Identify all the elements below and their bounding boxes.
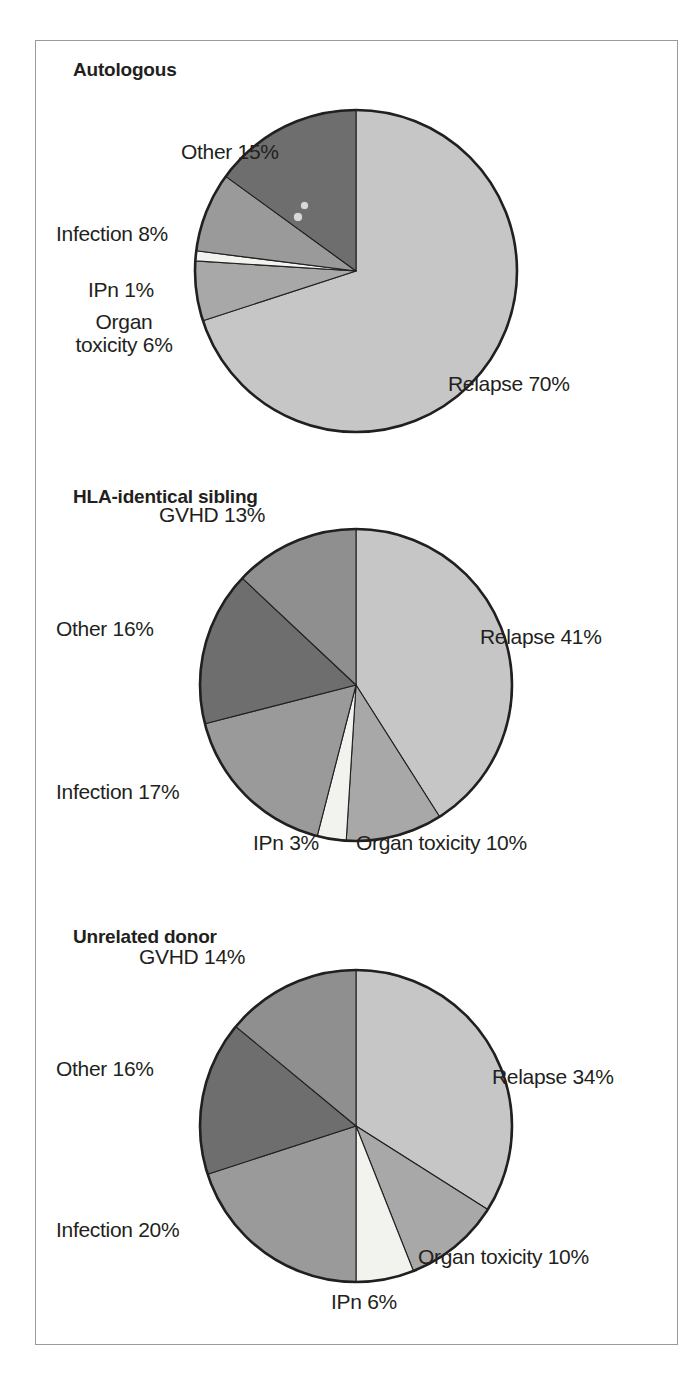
figure-frame: Autologous Other 15% Infection 8% IPn 1%… [35, 40, 678, 1345]
pie-svg-hla-identical-sibling [196, 525, 516, 845]
infection-label: Infection 8% [56, 223, 168, 246]
organ-toxicity-label: Organ toxicity 10% [356, 832, 527, 855]
organ-toxicity-label: Organ toxicity 10% [418, 1246, 589, 1269]
ipn-label: IPn 6% [331, 1291, 397, 1314]
infection-label: Infection 17% [56, 781, 179, 804]
pie-svg-unrelated-donor [196, 966, 516, 1286]
panel-unrelated-donor: Unrelated donor GVHD 14% Other 16% Infec… [36, 901, 677, 1344]
relapse-label: Relapse 34% [492, 1066, 614, 1089]
other-label: Other 16% [56, 1058, 154, 1081]
pie-chart-hla-identical-sibling [196, 525, 516, 845]
infection-label: Infection 20% [56, 1219, 179, 1242]
organ-toxicity-label: Organ toxicity 6% [54, 311, 194, 356]
gvhd-label: GVHD 13% [159, 504, 265, 527]
panel-autologous: Autologous Other 15% Infection 8% IPn 1%… [36, 41, 677, 461]
ipn-label: IPn 1% [88, 279, 154, 302]
other-label: Other 16% [56, 618, 154, 641]
gvhd-label: GVHD 14% [139, 946, 245, 969]
other-label: Other 15% [181, 141, 279, 164]
ipn-label: IPn 3% [253, 832, 319, 855]
scan-artifact-speck-a [301, 202, 308, 209]
pie-chart-unrelated-donor [196, 966, 516, 1286]
panel-title-autologous: Autologous [73, 59, 177, 81]
relapse-label: Relapse 70% [448, 373, 570, 396]
scan-artifact-speck-b [294, 213, 302, 221]
relapse-label: Relapse 41% [480, 626, 602, 649]
panel-hla-identical-sibling: HLA-identical sibling GVHD 13% Other 16%… [36, 461, 677, 901]
